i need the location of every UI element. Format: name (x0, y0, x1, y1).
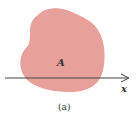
diagram-canvas: A x (a) (0, 0, 137, 120)
region-a-shape (20, 8, 104, 92)
region-label: A (56, 57, 65, 68)
figure-caption: (a) (58, 102, 70, 112)
axis-label-x: x (120, 83, 128, 94)
